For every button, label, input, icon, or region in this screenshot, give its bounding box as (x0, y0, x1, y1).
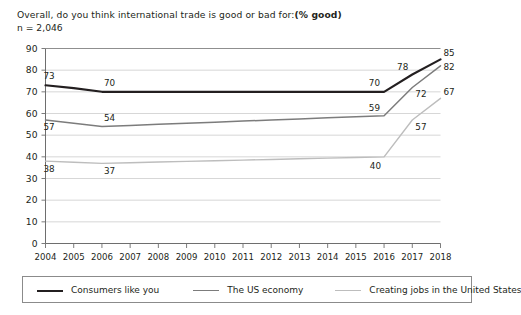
data-label-s0-2018: 85 (444, 48, 455, 58)
y-axis-labels-group: 0102030405060708090 (26, 43, 38, 249)
gridlines-group (42, 49, 441, 244)
x-tick-marks-group (46, 244, 441, 249)
data-label-s0-2017: 78 (397, 62, 408, 72)
x-axis-label-2006: 2006 (91, 252, 113, 262)
chart-legend: Consumers like youThe US economyCreating… (22, 276, 472, 303)
y-axis-label-50: 50 (26, 129, 38, 140)
data-label-s2-2018: 67 (444, 87, 455, 97)
x-axis-label-2012: 2012 (260, 252, 282, 262)
legend-label-2: Creating jobs in the United States (369, 285, 521, 295)
sample-size-label: n = 2,046 (17, 22, 467, 35)
y-axis-label-0: 0 (32, 238, 38, 249)
page-title-emphasis: (% good) (295, 9, 342, 20)
legend-swatch-bar (193, 290, 219, 291)
x-axis-label-2013: 2013 (288, 252, 310, 262)
data-label-s1-2017: 72 (415, 89, 426, 99)
x-axis-label-2010: 2010 (204, 252, 226, 262)
series-lines-group (46, 59, 441, 163)
y-axis-label-60: 60 (26, 108, 38, 119)
legend-swatch-bar (37, 290, 63, 292)
data-label-s0-2016: 70 (369, 78, 381, 88)
legend-line-swatch-0 (37, 285, 63, 295)
y-axis-label-40: 40 (26, 151, 38, 162)
legend-item-0[interactable]: Consumers like you (37, 285, 159, 295)
x-axis-label-2017: 2017 (401, 252, 423, 262)
y-axis-label-80: 80 (26, 64, 38, 75)
legend-swatch-bar (335, 290, 361, 291)
legend-line-swatch-1 (193, 285, 219, 295)
page-title-text: Overall, do you think international trad… (17, 9, 295, 20)
data-label-s2-2006: 37 (104, 166, 115, 176)
line-chart-svg: 0102030405060708090 20042005200620072008… (0, 38, 480, 266)
x-axis-label-2005: 2005 (63, 252, 85, 262)
y-axis-label-30: 30 (26, 173, 38, 184)
x-axis-label-2007: 2007 (119, 252, 141, 262)
y-axis-label-70: 70 (26, 86, 38, 97)
chart-area: 0102030405060708090 20042005200620072008… (0, 38, 480, 266)
y-axis-label-20: 20 (26, 194, 38, 205)
chart-header: Overall, do you think international trad… (17, 9, 467, 34)
x-axis-label-2018: 2018 (430, 252, 452, 262)
legend-line-swatch-2 (335, 285, 361, 295)
legend-label-0: Consumers like you (71, 285, 159, 295)
legend-item-1[interactable]: The US economy (193, 285, 303, 295)
x-axis-label-2014: 2014 (317, 252, 339, 262)
x-axis-label-2008: 2008 (147, 252, 169, 262)
page-title: Overall, do you think international trad… (17, 9, 467, 22)
x-axis-label-2015: 2015 (345, 252, 367, 262)
data-label-s2-2004: 38 (44, 164, 55, 174)
y-axis-label-90: 90 (26, 43, 38, 54)
x-axis-label-2011: 2011 (232, 252, 254, 262)
legend-label-1: The US economy (227, 285, 303, 295)
y-axis-label-10: 10 (26, 216, 38, 227)
data-label-s0-2006: 70 (104, 78, 116, 88)
x-axis-label-2016: 2016 (373, 252, 395, 262)
data-label-s2-2017: 57 (415, 122, 426, 132)
data-label-s1-2006: 54 (104, 113, 116, 123)
data-label-s1-2004: 57 (44, 122, 55, 132)
data-label-s1-2018: 82 (444, 62, 455, 72)
x-axis-labels-group: 2004200520062007200820092010201120122013… (35, 252, 452, 262)
data-label-s0-2004: 73 (44, 71, 55, 81)
data-label-s2-2016: 40 (370, 161, 382, 171)
legend-item-2[interactable]: Creating jobs in the United States (335, 285, 521, 295)
series-line-2 (46, 98, 441, 163)
x-axis-label-2009: 2009 (176, 252, 198, 262)
legend-items-container: Consumers like youThe US economyCreating… (23, 277, 471, 302)
data-label-s1-2016: 59 (369, 103, 380, 113)
x-axis-label-2004: 2004 (35, 252, 57, 262)
